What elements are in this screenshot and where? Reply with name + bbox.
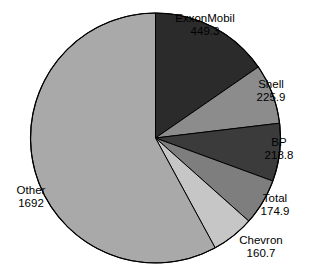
pie-label-chevron-value: 160.7: [239, 247, 282, 260]
pie-label-total-name: Total: [261, 192, 290, 205]
pie-label-shell: Shell 225.9: [257, 78, 286, 104]
pie-label-bp-name: BP: [265, 136, 294, 149]
pie-label-exxonmobil: ExxonMobil 449.3: [175, 12, 234, 38]
pie-label-other: Other 1692: [17, 184, 46, 210]
pie-label-bp-value: 218.8: [265, 149, 294, 162]
pie-label-exxonmobil-name: ExxonMobil: [175, 12, 234, 25]
pie-label-other-name: Other: [17, 184, 46, 197]
pie-chart: ExxonMobil 449.3 Shell 225.9 BP 218.8 To…: [0, 0, 315, 278]
pie-label-chevron: Chevron 160.7: [239, 234, 282, 260]
pie-label-shell-value: 225.9: [257, 91, 286, 104]
pie-label-exxonmobil-value: 449.3: [175, 25, 234, 38]
pie-slice-group: [31, 13, 281, 263]
pie-label-total-value: 174.9: [261, 205, 290, 218]
pie-label-chevron-name: Chevron: [239, 234, 282, 247]
pie-label-total: Total 174.9: [261, 192, 290, 218]
pie-label-bp: BP 218.8: [265, 136, 294, 162]
pie-label-shell-name: Shell: [257, 78, 286, 91]
pie-label-other-value: 1692: [17, 197, 46, 210]
